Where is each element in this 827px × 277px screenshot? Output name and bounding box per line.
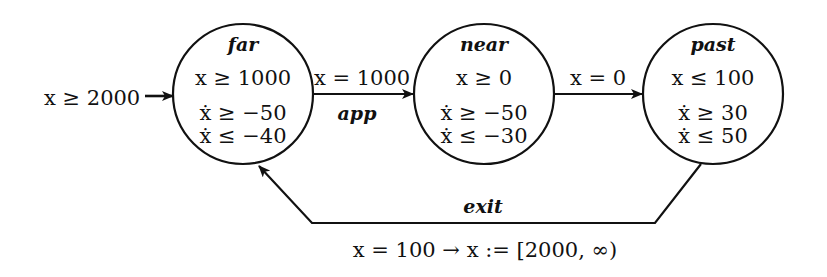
state-near-invariant: x ≥ 0 <box>456 68 512 89</box>
transition-far-near-guard: x = 1000 <box>314 68 410 89</box>
state-far-name: far <box>228 35 259 54</box>
transition-near-past-guard: x = 0 <box>570 68 626 89</box>
transition-far-near-event: app <box>338 104 377 123</box>
state-far-invariant: x ≥ 1000 <box>195 68 291 89</box>
state-past-invariant: x ≤ 100 <box>672 68 755 89</box>
state-far-rate-upper: ẋ ≤ −40 <box>199 126 286 147</box>
state-past-name: past <box>690 35 735 54</box>
state-past-rate-upper: ẋ ≤ 50 <box>678 126 748 147</box>
state-past-rate-lower: ẋ ≥ 30 <box>678 103 748 124</box>
state-near-rate-lower: ẋ ≥ −50 <box>440 103 527 124</box>
state-near-name: near <box>460 35 508 54</box>
transition-past-far-guard-reset: x = 100 → x := [2000, ∞) <box>353 240 617 261</box>
state-near-rate-upper: ẋ ≤ −30 <box>440 126 527 147</box>
initial-condition-label: x ≥ 2000 <box>44 88 140 109</box>
state-far-rate-lower: ẋ ≥ −50 <box>199 103 286 124</box>
transition-past-far-event: exit <box>463 197 502 216</box>
